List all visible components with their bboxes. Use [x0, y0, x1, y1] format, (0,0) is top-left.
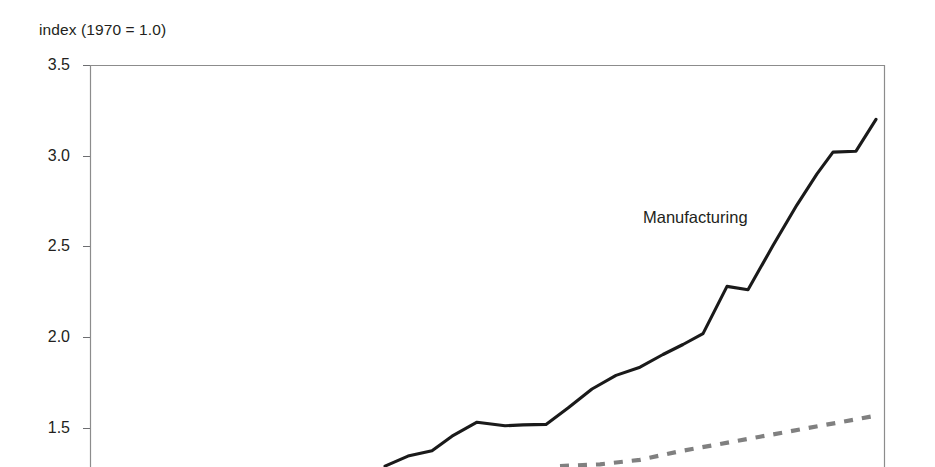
chart-figure: index (1970 = 1.0) 3.5 3.0 2.5 2.0 1.5 M… [0, 0, 935, 467]
plot-area: Manufacturing [0, 0, 935, 467]
series-line-manufacturing [385, 119, 876, 466]
annotation-manufacturing: Manufacturing [643, 208, 748, 226]
series-line-dashed [560, 415, 878, 466]
